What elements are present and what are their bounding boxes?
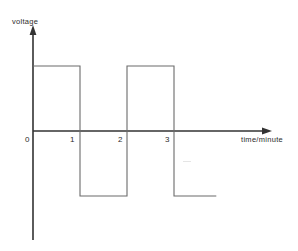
chart-figure: voltage time/minute 0 1 2 3 bbox=[0, 0, 298, 251]
x-tick-label-0: 0 bbox=[25, 136, 29, 144]
square-wave-plot bbox=[0, 0, 298, 251]
x-tick-label-1: 1 bbox=[70, 136, 74, 144]
y-axis-label: voltage bbox=[12, 18, 38, 26]
x-axis bbox=[33, 128, 272, 135]
scan-artifact bbox=[183, 161, 191, 162]
x-tick-label-2: 2 bbox=[118, 136, 122, 144]
x-axis-label: time/minute bbox=[241, 136, 283, 144]
x-axis-arrow-icon bbox=[262, 128, 272, 135]
x-tick-label-3: 3 bbox=[165, 136, 169, 144]
y-axis bbox=[30, 25, 37, 240]
y-axis-arrow-icon bbox=[30, 25, 37, 35]
